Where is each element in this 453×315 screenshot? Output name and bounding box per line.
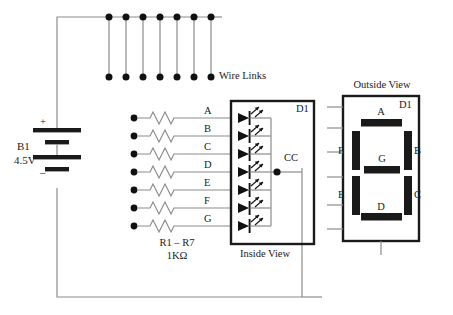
led-A — [238, 107, 271, 125]
segment-b-bar — [404, 131, 412, 170]
led-emission-arrows-B — [251, 125, 263, 135]
led-anode-triangle-E — [238, 185, 249, 195]
outside-view-left-pins — [327, 107, 343, 229]
resistor-zigzag-F — [137, 202, 231, 214]
led-G — [238, 215, 271, 233]
resistor-zigzag-B — [137, 130, 231, 142]
segment-c-bar — [404, 176, 412, 215]
resistor-zigzag-E — [137, 184, 231, 196]
resistor-network — [131, 112, 231, 232]
signal-line-label-G: G — [204, 214, 212, 225]
resistor-zigzag-A — [137, 112, 231, 124]
led-E — [238, 179, 271, 197]
battery-voltage-label: 4.5V — [14, 155, 36, 166]
segment-label-g: G — [378, 154, 386, 165]
resistor-terminal-dot-C — [131, 151, 138, 158]
signal-line-label-C: C — [204, 142, 211, 153]
resistor-row-D — [131, 166, 231, 178]
signal-line-label-A: A — [204, 106, 212, 117]
resistor-row-E — [131, 184, 231, 196]
led-emission-arrows-A — [251, 107, 263, 117]
resistor-row-B — [131, 130, 231, 142]
resistor-value-label: 1KΩ — [167, 251, 188, 262]
led-anode-triangle-D — [238, 167, 249, 177]
battery-short-plate-1 — [45, 140, 69, 144]
segment-e-bar — [352, 176, 360, 215]
positive-rail-wire — [57, 17, 211, 128]
segment-label-c: C — [414, 190, 421, 201]
led-emission-arrows-D — [251, 161, 263, 171]
battery-long-plate-1 — [33, 128, 81, 132]
led-F — [238, 197, 271, 215]
resistor-terminal-dot-A — [131, 115, 138, 122]
resistor-terminal-dot-E — [131, 187, 138, 194]
segment-label-d: D — [377, 202, 385, 213]
led-C — [238, 143, 271, 161]
common-cathode-label: CC — [284, 153, 298, 164]
segment-a-bar — [361, 119, 402, 127]
segment-label-a: A — [377, 107, 385, 118]
segment-d-bar — [361, 213, 402, 221]
led-emission-arrows-C — [251, 143, 263, 153]
led-anode-triangle-B — [238, 131, 249, 141]
led-anode-triangle-G — [238, 221, 249, 231]
led-emission-arrows-F — [251, 197, 263, 207]
battery-long-plate-2 — [33, 155, 81, 159]
resistor-zigzag-G — [137, 220, 231, 232]
resistor-range-label: R1 – R7 — [159, 238, 194, 249]
wire-links-group — [106, 14, 215, 81]
resistor-terminal-dot-D — [131, 169, 138, 176]
resistor-zigzag-C — [137, 148, 231, 160]
led-anode-triangle-C — [238, 149, 249, 159]
outside-view-title-label: Outside View — [353, 80, 410, 91]
common-cathode-node-dot — [273, 168, 280, 175]
resistor-terminal-dot-B — [131, 133, 138, 140]
led-array-group — [238, 107, 302, 233]
battery-designator-label: B1 — [17, 141, 30, 152]
battery-short-plate-2 — [45, 167, 69, 171]
led-anode-triangle-A — [238, 113, 249, 123]
resistor-zigzag-D — [137, 166, 231, 178]
resistor-row-A — [131, 112, 231, 124]
circuit-diagram-canvas: Wire Links B1 4.5V + – A B C D E F G R1 … — [0, 0, 453, 315]
outside-view-designator-label: D1 — [399, 100, 412, 111]
segment-label-b: B — [414, 146, 421, 157]
segment-label-e: E — [338, 190, 344, 201]
signal-line-label-B: B — [204, 124, 211, 135]
segment-g-bar — [364, 166, 400, 174]
resistor-terminal-dot-F — [131, 205, 138, 212]
led-anode-triangle-F — [238, 203, 249, 213]
resistor-row-F — [131, 202, 231, 214]
wire-links-label: Wire Links — [219, 71, 266, 82]
battery-plus-label: + — [40, 117, 46, 128]
led-D — [238, 161, 271, 179]
led-emission-arrows-E — [251, 179, 263, 189]
resistor-row-C — [131, 148, 231, 160]
battery-minus-label: – — [40, 168, 45, 179]
segment-label-f: F — [338, 146, 344, 157]
led-B — [238, 125, 271, 143]
signal-line-label-D: D — [204, 160, 212, 171]
resistor-row-G — [131, 220, 231, 232]
led-emission-arrows-G — [251, 215, 263, 225]
signal-line-label-E: E — [204, 178, 210, 189]
segment-f-bar — [352, 131, 360, 170]
outside-view-group — [327, 96, 419, 255]
resistor-terminal-dot-G — [131, 223, 138, 230]
inside-view-title-label: Inside View — [240, 249, 290, 260]
battery-symbol — [33, 128, 81, 171]
signal-line-label-F: F — [204, 196, 210, 207]
inside-view-designator-label: D1 — [296, 104, 309, 115]
